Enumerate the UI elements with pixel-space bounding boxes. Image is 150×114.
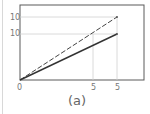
y-tick-label-2: 10 <box>10 30 20 38</box>
dashed-end-marker <box>116 16 118 18</box>
figure-caption: (a) <box>68 94 86 107</box>
origin-label: 0 <box>17 84 22 92</box>
solid-series-line <box>20 34 117 80</box>
plot-frame <box>20 5 144 80</box>
y-tick-label-1: 10 <box>10 14 20 22</box>
solid-end-marker <box>116 33 118 35</box>
x-tick-label-2: 5 <box>115 84 120 92</box>
dashed-series-line <box>20 17 117 80</box>
x-tick-label-1: 5 <box>91 84 96 92</box>
